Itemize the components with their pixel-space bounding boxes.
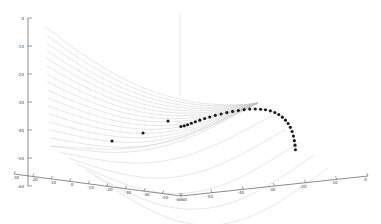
mesh-rib — [135, 84, 138, 151]
data-point-marker — [220, 112, 223, 115]
mesh-curve-outer — [59, 116, 272, 163]
data-point-marker — [259, 108, 262, 111]
ytick-label: -30 — [269, 187, 276, 192]
mesh-rib — [217, 104, 218, 124]
mesh-rib — [61, 39, 66, 148]
data-point-marker — [293, 139, 296, 142]
xtick-label: 10 — [51, 180, 57, 185]
mesh-rib — [53, 33, 58, 147]
mesh-rib — [184, 100, 186, 139]
mesh-curve-outer — [77, 142, 300, 194]
xtick-label: 0 — [71, 182, 74, 187]
mesh-curve — [49, 103, 258, 138]
mesh-rib — [70, 45, 74, 149]
mesh-curves-secondary — [53, 33, 250, 153]
xtick-label: -10 — [87, 185, 94, 190]
plot-canvas: 0-10-20-30-40-50-60 3020100-10-20-30-40-… — [0, 0, 381, 224]
xtick-label: -20 — [106, 187, 113, 192]
ztick-label: -40 — [17, 128, 24, 133]
data-point-marker — [243, 108, 246, 111]
xtick-label: 20 — [32, 177, 38, 182]
mesh-curve — [46, 50, 258, 109]
data-point-marker — [186, 123, 189, 126]
xtick-label: -30 — [124, 190, 131, 195]
data-point-marker — [110, 139, 113, 142]
ztick-label: -10 — [17, 44, 24, 49]
data-point-marker — [264, 108, 267, 111]
data-point-marker — [293, 144, 296, 147]
ztick-label: -60 — [17, 184, 24, 189]
data-point-marker — [214, 114, 217, 117]
data-point-marker — [231, 110, 234, 113]
ytick-label: -10 — [331, 180, 338, 185]
data-point-marker — [294, 148, 297, 151]
data-point-marker — [292, 135, 295, 138]
data-point-marker — [194, 120, 197, 123]
mesh-rib — [127, 80, 130, 152]
data-point-marker — [273, 111, 276, 114]
mesh-rib — [160, 94, 162, 147]
data-point-marker — [166, 119, 169, 122]
mesh-curve — [49, 103, 258, 142]
ytick-label: 0 — [364, 177, 367, 182]
mesh-curve — [48, 90, 258, 122]
data-point-marker — [289, 126, 292, 129]
data-point-marker — [284, 119, 287, 122]
data-point-marker — [281, 116, 284, 119]
xtick-label: -50 — [162, 195, 169, 200]
mesh-rib — [192, 102, 194, 136]
mesh-rib — [176, 98, 178, 141]
data-point-marker — [269, 109, 272, 112]
axis-vertical: 0-10-20-30-40-50-60 — [17, 16, 32, 189]
data-point-marker — [225, 111, 228, 114]
data-point-marker — [291, 130, 294, 133]
mesh-rib — [152, 91, 155, 149]
data-point-marker — [248, 108, 251, 111]
data-point-marker — [237, 109, 240, 112]
data-point-marker — [254, 107, 257, 110]
mesh-rib — [201, 103, 202, 132]
data-point-marker — [190, 122, 193, 125]
data-point-marker — [179, 125, 182, 128]
axis-bottom-left: 3020100-10-20-30-40-50-60 — [14, 171, 187, 202]
mesh-rib — [143, 88, 146, 150]
ytick-label: -20 — [300, 184, 307, 189]
data-point-marker — [183, 124, 186, 127]
axis-bottom-right: -60-50-40-30-20-100 — [175, 173, 368, 202]
data-point-marker — [141, 131, 144, 134]
data-point-marker — [203, 117, 206, 120]
ytick-label: -50 — [206, 194, 213, 199]
ztick-label: -30 — [17, 100, 24, 105]
xtick-label: -40 — [143, 192, 150, 197]
data-point-marker — [287, 122, 290, 125]
plot-svg: 0-10-20-30-40-50-60 3020100-10-20-30-40-… — [0, 0, 381, 224]
ytick-label: -40 — [237, 190, 244, 195]
mesh-curve-outer — [50, 103, 258, 149]
ytick-label: -60 — [175, 197, 182, 202]
ztick-label: 0 — [21, 16, 24, 21]
xtick-label: 30 — [14, 175, 20, 180]
ztick-label: -50 — [17, 156, 24, 161]
data-point-marker — [208, 115, 211, 118]
data-point-marker — [198, 119, 201, 122]
data-point-marker — [277, 113, 280, 116]
ztick-label: -20 — [17, 72, 24, 77]
